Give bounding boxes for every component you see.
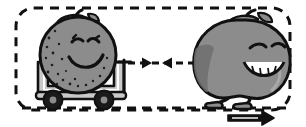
wagon-wheel-rear bbox=[44, 91, 63, 110]
illustration-canvas: Newton's third law cartoon: apple pullin… bbox=[0, 0, 306, 127]
apple-foot-rear bbox=[205, 102, 222, 108]
apple-foot-front bbox=[233, 103, 251, 109]
physics-cartoon-svg bbox=[0, 0, 306, 127]
wagon-wheel-front bbox=[95, 91, 114, 110]
